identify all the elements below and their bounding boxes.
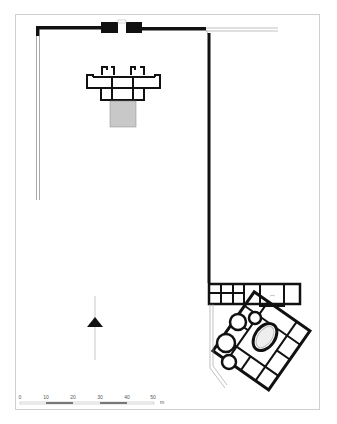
scale-tick-0: 0 — [19, 394, 22, 400]
scale-tick-30: 30 — [97, 394, 103, 400]
drawing-frame — [16, 15, 320, 410]
scale-unit: m — [160, 399, 164, 405]
east-wall — [208, 33, 211, 283]
gate-tower-left — [101, 22, 118, 33]
scale-tick-20: 20 — [70, 394, 76, 400]
north-arrow-triangle-icon — [87, 317, 103, 327]
site-plan: ꟷ 0 10 20 30 4 — [0, 0, 337, 424]
bath-complex: ꟷ — [209, 284, 310, 390]
scale-tick-50: 50 — [150, 394, 156, 400]
temple — [87, 67, 160, 100]
temple-podium-hatched — [110, 101, 136, 127]
scale-tick-10: 10 — [43, 394, 49, 400]
scale-tick-40: 40 — [124, 394, 130, 400]
scale-bar: 0 10 20 30 40 50 m — [19, 394, 165, 405]
west-wall — [37, 36, 40, 200]
north-wall — [36, 20, 206, 36]
north-arrow — [87, 296, 103, 360]
svg-text:ꟷ: ꟷ — [270, 293, 275, 299]
gate-tower-right — [126, 22, 142, 33]
northeast-wall — [206, 28, 278, 36]
